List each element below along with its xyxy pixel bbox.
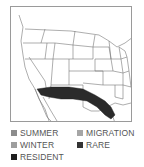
migration-swatch-icon xyxy=(77,130,83,136)
legend-item-migration: MIGRATION xyxy=(77,128,134,138)
legend-item-rare: RARE xyxy=(77,140,110,150)
resident-range xyxy=(37,87,115,119)
range-map xyxy=(10,6,132,122)
legend-label: RESIDENT xyxy=(20,152,64,162)
legend-label: SUMMER xyxy=(20,128,58,138)
legend-item-resident: RESIDENT xyxy=(11,152,64,162)
rare-swatch-icon xyxy=(77,142,83,148)
legend-item-winter: WINTER xyxy=(11,140,54,150)
legend-label: MIGRATION xyxy=(86,128,134,138)
map-outline xyxy=(11,7,132,122)
legend-label: WINTER xyxy=(20,140,54,150)
winter-swatch-icon xyxy=(11,142,17,148)
resident-swatch-icon xyxy=(11,154,17,160)
legend-item-summer: SUMMER xyxy=(11,128,58,138)
legend-label: RARE xyxy=(86,140,110,150)
summer-swatch-icon xyxy=(11,130,17,136)
